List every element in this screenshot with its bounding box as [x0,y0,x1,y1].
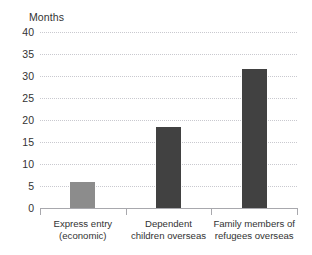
bar-chart: Months 4035302520151050 Express entry(ec… [0,0,312,255]
y-axis-tick-label: 15 [22,136,34,148]
category-label-line1: Express entry [54,218,113,229]
bar[interactable] [70,182,95,208]
category-axis-tick [40,208,41,215]
y-axis-tick-label: 0 [28,202,34,214]
category-label-line1: Family members of [213,218,295,229]
bar[interactable] [156,127,181,208]
category-axis-tick [297,208,298,215]
category-axis-line [40,208,297,209]
y-axis-tick-label: 25 [22,92,34,104]
y-axis-tick-label: 10 [22,158,34,170]
category-label-line1: Dependent [145,218,192,229]
category-axis-tick [126,208,127,215]
y-axis-tick-label: 5 [28,180,34,192]
category-axis-tick [211,208,212,215]
y-axis-title: Months [29,11,64,23]
category-label-line2: refugees overseas [211,230,297,242]
category-label-line2: (economic) [40,230,126,242]
y-axis-tick-label: 35 [22,48,34,60]
gridline [40,54,297,55]
y-axis-tick-label: 30 [22,70,34,82]
x-axis-category-label: Express entry(economic) [40,218,126,241]
y-axis-tick-label: 20 [22,114,34,126]
x-axis-category-label: Family members ofrefugees overseas [211,218,297,241]
gridline [40,32,297,33]
y-axis-tick-label: 40 [22,26,34,38]
category-label-line2: children overseas [126,230,212,242]
x-axis-category-label: Dependentchildren overseas [126,218,212,241]
plot-area: 4035302520151050 [40,32,297,208]
bar[interactable] [242,69,267,208]
